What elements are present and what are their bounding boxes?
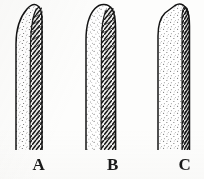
figure-label-a: A bbox=[22, 155, 56, 175]
figure-c-drawing bbox=[148, 0, 204, 152]
figure-panel-a bbox=[0, 0, 62, 152]
figure-label-c: C bbox=[168, 155, 202, 175]
figure-label-b: B bbox=[96, 155, 130, 175]
figure-panel-b bbox=[72, 0, 134, 152]
figure-a-drawing bbox=[0, 0, 62, 152]
figure-plate: A B C bbox=[0, 0, 204, 179]
figure-panel-c bbox=[148, 0, 204, 152]
figure-c-stipple-fill bbox=[148, 0, 204, 152]
figure-b-drawing bbox=[72, 0, 134, 152]
